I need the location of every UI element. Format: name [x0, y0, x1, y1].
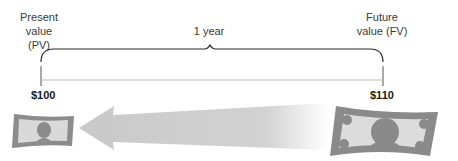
- timeline-axis: [41, 66, 383, 86]
- present-value-amount: $100: [31, 89, 55, 101]
- dollar-bill-icon: [12, 114, 74, 148]
- arrow-left-icon: [79, 103, 328, 150]
- future-value-amount: $110: [370, 89, 394, 101]
- timeline-diagram: [0, 0, 458, 161]
- dollar-bill-icon: [330, 106, 438, 156]
- year-brace: [41, 45, 383, 62]
